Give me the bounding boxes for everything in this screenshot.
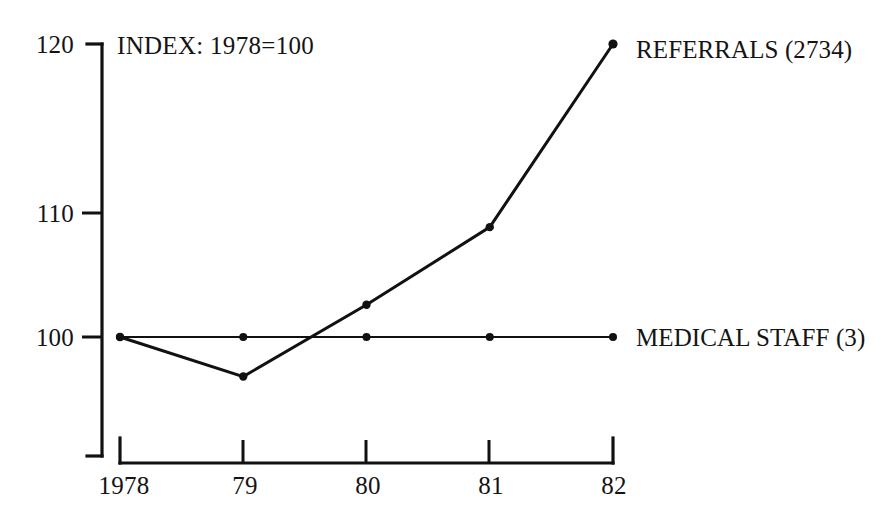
series-label-referrals: REFERRALS (2734) — [636, 36, 852, 64]
data-point-medical-staff-81 — [486, 333, 494, 341]
data-point-medical-staff-82 — [609, 333, 617, 341]
data-point-referrals-1978 — [116, 333, 124, 341]
x-tick-label-81: 81 — [478, 472, 503, 499]
x-tick-label-1978: 1978 — [99, 472, 150, 499]
data-point-referrals-79 — [239, 372, 247, 380]
data-point-medical-staff-79 — [239, 333, 247, 341]
y-tick-label-120: 120 — [36, 31, 74, 58]
data-point-referrals-81 — [486, 223, 494, 231]
index-annotation: INDEX: 1978=100 — [117, 32, 314, 59]
chart-figure: 120 110 100 1978 79 80 81 82 — [0, 0, 881, 532]
y-tick-label-110: 110 — [37, 200, 74, 227]
x-tick-label-80: 80 — [355, 472, 380, 499]
data-point-medical-staff-80 — [363, 333, 371, 341]
series-line-referrals — [120, 44, 613, 377]
y-tick-label-100: 100 — [36, 324, 74, 351]
line-chart: 120 110 100 1978 79 80 81 82 — [0, 0, 881, 532]
x-tick-label-82: 82 — [601, 472, 626, 499]
x-tick-label-79: 79 — [232, 472, 257, 499]
series-markers-referrals — [116, 39, 618, 380]
series-label-medical-staff: MEDICAL STAFF (3) — [636, 324, 865, 352]
data-point-referrals-82 — [608, 39, 617, 48]
data-point-referrals-80 — [362, 301, 370, 309]
